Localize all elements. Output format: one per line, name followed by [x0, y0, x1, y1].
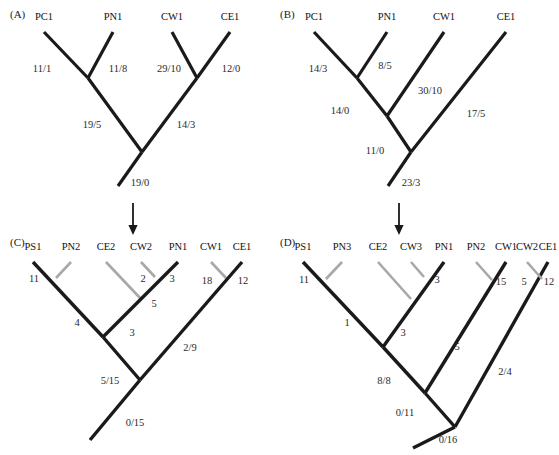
branch-value-d-9: 8/8: [377, 375, 390, 386]
tip-label-b-cw1: CW1: [433, 11, 455, 22]
branch-value-d-10: 0/11: [396, 407, 414, 418]
branch-d-10: [527, 262, 542, 279]
panel-d-branches: [303, 262, 548, 448]
branch-value-b-5: 11/0: [366, 145, 384, 156]
tip-label-b-ce1: CE1: [497, 11, 516, 22]
tip-label-c-ce1: CE1: [233, 241, 252, 252]
branch-value-b-1: 8/5: [378, 60, 391, 71]
branch-value-d-4: 12: [544, 276, 555, 287]
tree-branches-canvas: [0, 0, 559, 455]
tip-label-c-ps1: PS1: [25, 241, 42, 252]
tip-label-c-cw1: CW1: [200, 241, 222, 252]
branch-c-0: [33, 262, 103, 337]
branch-d-0: [303, 262, 383, 347]
branch-value-d-7: 5: [454, 341, 459, 352]
branch-value-b-4: 14/0: [331, 105, 350, 116]
arrow-b-to-d: [394, 203, 403, 235]
panel-label-d: (D): [280, 236, 295, 248]
branch-value-c-6: 4: [74, 317, 79, 328]
branch-value-c-7: 3: [129, 327, 134, 338]
tip-label-d-cw1: CW1: [495, 241, 517, 252]
branch-value-c-0: 11: [29, 273, 39, 284]
branch-b-3: [387, 32, 444, 116]
tip-label-a-pn1: PN1: [104, 11, 123, 22]
branch-d-5: [383, 347, 425, 393]
branch-value-d-2: 15: [496, 276, 507, 287]
branch-value-b-3: 17/5: [467, 108, 486, 119]
panel-label-a: (A): [10, 8, 25, 20]
branch-value-c-9: 5/15: [101, 375, 120, 386]
branch-d-8: [425, 393, 455, 427]
panel-a-branches: [44, 32, 230, 186]
panel-label-c: (C): [10, 236, 25, 248]
tip-label-d-cw3: CW3: [400, 241, 422, 252]
branch-d-7: [476, 262, 492, 280]
branch-value-c-8: 2/9: [183, 342, 196, 353]
arrow-head-icon: [128, 225, 137, 235]
branch-value-c-3: 18: [202, 275, 213, 286]
branch-d-1: [326, 262, 342, 279]
branch-value-d-8: 2/4: [498, 366, 511, 377]
tip-label-d-pn2: PN2: [467, 241, 486, 252]
branch-value-a-0: 11/1: [33, 63, 51, 74]
tip-label-d-ps1: PS1: [295, 241, 312, 252]
branch-value-a-5: 14/3: [177, 119, 196, 130]
branch-value-a-3: 12/0: [222, 63, 241, 74]
tip-label-d-ce2: CE2: [369, 241, 388, 252]
branch-value-d-6: 3: [400, 327, 405, 338]
tip-label-a-cw1: CW1: [161, 11, 183, 22]
branch-c-1: [56, 262, 71, 278]
branch-d-2: [378, 262, 411, 299]
tip-label-c-ce2: CE2: [97, 241, 116, 252]
branch-a-5: [142, 78, 197, 152]
branch-value-b-2: 30/10: [418, 85, 442, 96]
branch-value-b-6: 23/3: [402, 177, 421, 188]
arrow-head-icon: [394, 225, 403, 235]
branch-c-7: [140, 262, 242, 380]
branch-value-a-2: 29/10: [157, 63, 181, 74]
branch-d-9: [455, 262, 548, 427]
phylogenetic-tree-figure: (A)PC1PN1CW1CE111/111/829/1012/019/514/3…: [0, 0, 559, 455]
branch-value-d-1: 3: [434, 274, 439, 285]
panel-c-branches: [33, 262, 242, 440]
branch-value-c-10: 0/15: [126, 417, 145, 428]
tip-label-d-pn1: PN1: [435, 241, 454, 252]
branch-value-d-5: 1: [344, 317, 349, 328]
tip-label-a-pc1: PC1: [35, 11, 53, 22]
branch-c-2: [106, 262, 141, 299]
branch-c-8: [90, 380, 140, 440]
branch-value-d-3: 5: [521, 276, 526, 287]
tip-label-d-pn3: PN3: [333, 241, 352, 252]
branch-value-a-6: 19/0: [131, 177, 150, 188]
branch-value-a-1: 11/8: [109, 63, 127, 74]
branch-d-3: [411, 262, 424, 277]
tip-label-d-ce1: CE1: [539, 241, 558, 252]
branch-b-1: [357, 32, 387, 78]
branch-value-c-5: 5: [151, 298, 156, 309]
tip-label-c-pn2: PN2: [62, 241, 81, 252]
tip-label-c-cw2: CW2: [130, 241, 152, 252]
panel-label-b: (B): [280, 8, 295, 20]
tip-label-c-pn1: PN1: [169, 241, 188, 252]
branch-value-d-11: 0/16: [439, 434, 458, 445]
branch-c-6: [211, 262, 226, 278]
tip-label-b-pc1: PC1: [305, 11, 323, 22]
branch-value-c-4: 12: [238, 275, 249, 286]
arrow-a-to-c: [128, 203, 137, 235]
branch-value-c-1: 2: [140, 273, 145, 284]
branch-value-a-4: 19/5: [83, 119, 102, 130]
branch-value-b-0: 14/3: [309, 63, 328, 74]
branch-b-4: [387, 116, 411, 152]
tip-label-a-ce1: CE1: [221, 11, 240, 22]
branch-value-d-0: 11: [299, 274, 309, 285]
tip-label-d-cw2: CW2: [516, 241, 538, 252]
branch-value-c-2: 3: [169, 273, 174, 284]
branch-b-2: [357, 78, 387, 116]
branch-a-4: [88, 78, 142, 152]
tip-label-b-pn1: PN1: [378, 11, 397, 22]
